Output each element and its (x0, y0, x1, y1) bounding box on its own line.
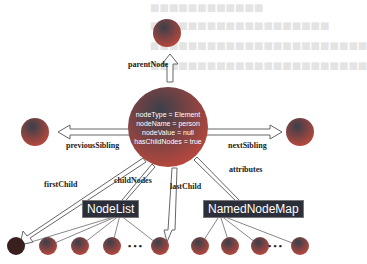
center-node-info: nodeType = Element nodeName = person nod… (123, 110, 213, 146)
has-child-nodes: hasChildNodes = true (123, 137, 213, 146)
label-first-child: firstChild (44, 180, 77, 189)
node-type: nodeType = Element (123, 110, 213, 119)
next-sibling-node (286, 118, 314, 146)
label-previous-sibling: previousSibling (66, 141, 119, 150)
namednodemap-box: NamedNodeMap (203, 200, 304, 218)
previous-sibling-node (21, 118, 49, 146)
nodelist-box: NodeList (82, 200, 139, 218)
label-last-child: lastChild (170, 182, 201, 191)
label-child-nodes: childNodes (114, 176, 152, 185)
label-parent-node: parentNode (128, 60, 168, 69)
parent-node (153, 19, 181, 47)
node-value: nodeValue = null (123, 128, 213, 137)
ellipsis: • • • (268, 241, 282, 251)
ellipsis: • • • (128, 241, 142, 251)
label-attributes: attributes (229, 165, 262, 174)
label-next-sibling: nextSibling (228, 141, 267, 150)
node-name: nodeName = person (123, 119, 213, 128)
